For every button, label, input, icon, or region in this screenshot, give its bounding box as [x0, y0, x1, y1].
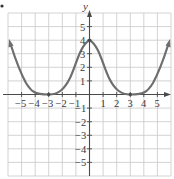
y-axis-label: y: [82, 0, 88, 12]
y-tick-label: −2: [75, 117, 86, 128]
function-graph: y −5 −4 −3 −2 −1 1 2 3 4 5 5 4 3 2 1 −1 …: [0, 0, 174, 179]
y-tick-label: −1: [75, 103, 86, 114]
y-tick-label: 5: [80, 22, 85, 33]
x-tick-label: −4: [29, 98, 41, 109]
max-point: [88, 39, 91, 42]
x-tick-label: 5: [155, 98, 160, 109]
y-tick-label: 4: [80, 35, 86, 46]
y-tick-label: −3: [75, 130, 86, 141]
item-bullet: [0, 4, 3, 7]
x-axis-arrow-icon: [164, 92, 171, 97]
x-tick-label: −2: [56, 98, 67, 109]
y-tick-label: −4: [75, 144, 87, 155]
x-tick-label: 4: [141, 98, 147, 109]
y-tick-label: −5: [75, 157, 86, 168]
y-tick-label: 1: [80, 76, 85, 87]
min-point-left: [47, 93, 50, 96]
x-tick-label: −5: [15, 98, 26, 109]
y-tick-label: 2: [80, 62, 85, 73]
x-tick-labels: −5 −4 −3 −2 −1 1 2 3 4 5: [15, 98, 160, 109]
x-tick-label: 3: [128, 98, 133, 109]
min-point-right: [129, 93, 132, 96]
y-tick-label: 3: [80, 49, 85, 60]
x-tick-label: 1: [101, 98, 106, 109]
x-tick-label: −3: [42, 98, 53, 109]
x-tick-label: 2: [114, 98, 119, 109]
